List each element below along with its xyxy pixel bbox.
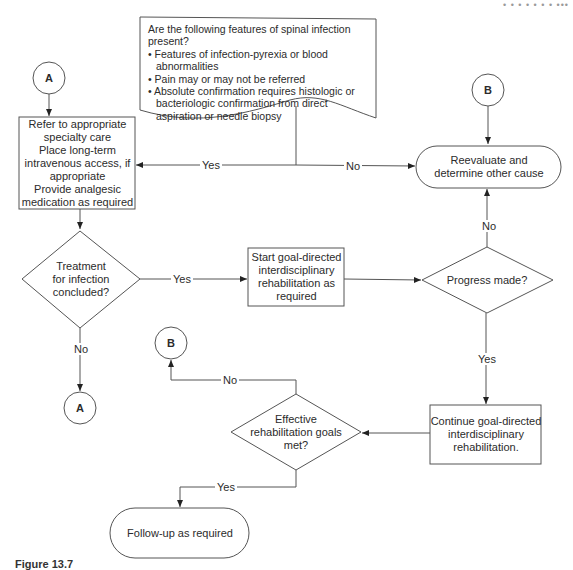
goals-line: met? bbox=[240, 439, 352, 452]
refer-box: Refer to appropriate specialty care Plac… bbox=[19, 118, 136, 209]
start-question: Are the following features of spinal inf… bbox=[148, 23, 373, 122]
reevaluate-line: Reevaluate and bbox=[416, 154, 562, 167]
progress-line: Progress made? bbox=[432, 274, 542, 287]
connector-b-bottom: B bbox=[161, 337, 181, 349]
refer-line: Place long-term bbox=[19, 144, 136, 157]
edge-label-progress-no: No bbox=[480, 220, 498, 232]
treatment-line: for infection bbox=[30, 273, 132, 286]
continue-line: rehabilitation. bbox=[430, 441, 542, 454]
refer-line: medication as required bbox=[19, 196, 136, 209]
start-question-bullet: Absolute confirmation requires histologi… bbox=[148, 85, 373, 122]
edge-label-goals-yes: Yes bbox=[215, 481, 237, 493]
goals-line: Effective bbox=[240, 413, 352, 426]
treatment-line: concluded? bbox=[30, 286, 132, 299]
refer-line: Refer to appropriate bbox=[19, 118, 136, 131]
edge-label-start-yes: Yes bbox=[200, 159, 222, 171]
start-question-title: Are the following features of spinal inf… bbox=[148, 23, 373, 48]
start-question-bullets: Features of infection-pyrexia or blood a… bbox=[148, 48, 373, 122]
continue-line: interdisciplinary bbox=[430, 428, 542, 441]
figure-caption-fragment: Figure 13.7 bbox=[15, 558, 73, 570]
follow-up-line: Follow-up as required bbox=[110, 527, 250, 540]
follow-up-node: Follow-up as required bbox=[110, 527, 250, 540]
start-rehab-line: rehabilitation as bbox=[248, 277, 345, 290]
start-rehab-line: interdisciplinary bbox=[248, 264, 345, 277]
edge-label-start-no: No bbox=[344, 160, 362, 172]
progress-decision: Progress made? bbox=[432, 274, 542, 287]
edge-label-goals-no: No bbox=[221, 374, 239, 386]
start-rehab-line: Start goal-directed bbox=[248, 251, 345, 264]
goals-decision: Effective rehabilitation goals met? bbox=[240, 413, 352, 452]
edge-label-treatment-no: No bbox=[72, 343, 90, 355]
goals-line: rehabilitation goals bbox=[240, 426, 352, 439]
connector-a-bottom: A bbox=[70, 402, 90, 414]
connector-a-top: A bbox=[39, 72, 59, 84]
treatment-decision: Treatment for infection concluded? bbox=[30, 260, 132, 299]
page-header-fragment: • • • • • • • ••• bbox=[503, 0, 569, 10]
reevaluate-node: Reevaluate and determine other cause bbox=[416, 154, 562, 180]
reevaluate-line: determine other cause bbox=[416, 167, 562, 180]
treatment-line: Treatment bbox=[30, 260, 132, 273]
start-question-bullet: Features of infection-pyrexia or blood a… bbox=[148, 48, 373, 73]
start-rehab-node: Start goal-directed interdisciplinary re… bbox=[248, 251, 345, 303]
refer-line: specialty care bbox=[19, 131, 136, 144]
refer-line: appropriate bbox=[19, 170, 136, 183]
refer-line: intravenous access, if bbox=[19, 157, 136, 170]
start-rehab-line: required bbox=[248, 290, 345, 303]
start-question-bullet: Pain may or may not be referred bbox=[148, 73, 373, 85]
edge-label-treatment-yes: Yes bbox=[171, 273, 193, 285]
continue-rehab-node: Continue goal-directed interdisciplinary… bbox=[430, 415, 542, 454]
refer-line: Provide analgesic bbox=[19, 183, 136, 196]
connector-b-top: B bbox=[478, 84, 498, 96]
continue-line: Continue goal-directed bbox=[430, 415, 542, 428]
edge-label-progress-yes: Yes bbox=[476, 353, 498, 365]
